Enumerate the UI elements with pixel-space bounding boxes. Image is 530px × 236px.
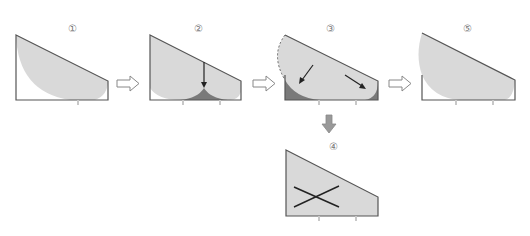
step-5: ⑤	[419, 23, 516, 105]
inlet-marker	[355, 216, 357, 221]
step-4-label: ④	[329, 141, 338, 152]
step-4: ④	[286, 141, 378, 221]
inlet-marker	[492, 100, 494, 105]
room-outline	[286, 150, 378, 216]
step-2: ②	[150, 23, 241, 105]
airflow-region	[16, 35, 108, 100]
inlet-marker	[455, 100, 457, 105]
arrow-1-to-2	[117, 76, 139, 91]
inlet-marker	[182, 100, 184, 105]
inlet-marker	[77, 100, 79, 105]
hollow-arrow-right-icon	[253, 76, 275, 91]
airflow-region	[419, 33, 516, 100]
solid-arrow-down-icon	[322, 115, 336, 133]
step-3: ③	[278, 23, 379, 105]
step-1: ①	[16, 23, 108, 105]
arrow-3-to-4	[322, 115, 336, 133]
inlet-marker	[355, 100, 357, 105]
step-2-label: ②	[194, 23, 203, 34]
airflow-region	[150, 35, 241, 100]
step-3-label: ③	[326, 23, 335, 34]
hollow-arrow-right-icon	[117, 76, 139, 91]
arrow-3-to-5	[389, 76, 411, 91]
inlet-marker	[219, 100, 221, 105]
inlet-marker	[318, 100, 320, 105]
arrow-2-to-3	[253, 76, 275, 91]
inlet-marker	[318, 216, 320, 221]
step-5-label: ⑤	[463, 23, 472, 34]
hollow-arrow-right-icon	[389, 76, 411, 91]
step-1-label: ①	[68, 23, 77, 34]
diagram-canvas: ① ② ③	[0, 0, 530, 236]
